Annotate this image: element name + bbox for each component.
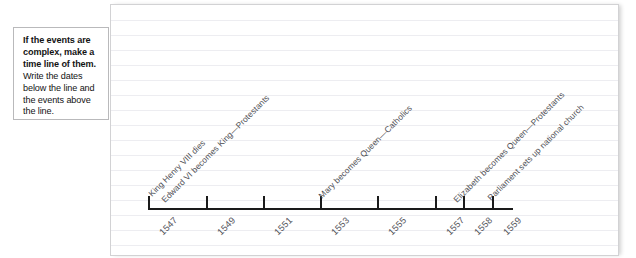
notebook-page: [110, 4, 619, 256]
callout-lead: If the events are complex, make a time l…: [23, 35, 96, 69]
callout-rest: Write the dates below the line and the e…: [23, 71, 95, 117]
page-right-edge: [618, 5, 619, 255]
ruled-lines: [111, 5, 619, 255]
callout-text: If the events are complex, make a time l…: [23, 35, 100, 118]
study-tip-callout: If the events are complex, make a time l…: [13, 27, 109, 120]
